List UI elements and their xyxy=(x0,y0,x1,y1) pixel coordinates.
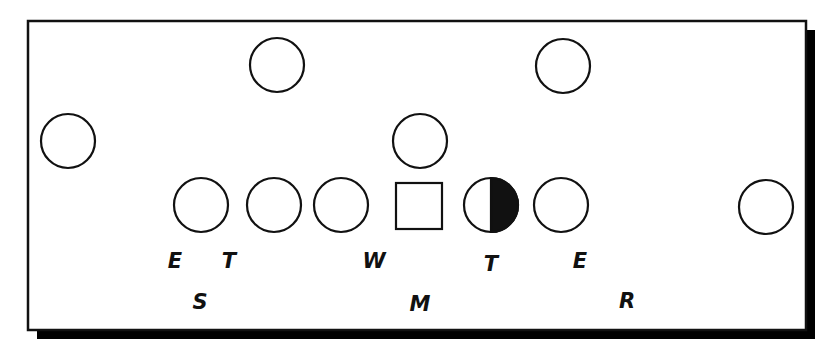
player-circle-wr-right xyxy=(739,180,793,234)
defender-label-e: E xyxy=(573,249,588,273)
defender-label-s: S xyxy=(192,290,207,314)
player-circle-qb xyxy=(393,114,447,168)
defender-label-t: T xyxy=(222,249,238,273)
player-circle-wr-left xyxy=(41,114,95,168)
player-circle-lg xyxy=(247,178,301,232)
defender-label-m: M xyxy=(410,292,431,316)
center-square xyxy=(396,183,442,229)
defender-label-w: W xyxy=(362,249,386,273)
defender-label-r: R xyxy=(619,289,635,313)
formation-diagram: ETWTESMR xyxy=(0,0,837,357)
defender-label-e: E xyxy=(168,249,183,273)
frame-border xyxy=(28,21,806,330)
player-circle-back-right xyxy=(536,39,590,93)
player-circle-rt xyxy=(534,178,588,232)
player-circle-back-left xyxy=(250,38,304,92)
defender-label-t: T xyxy=(484,252,500,276)
player-circle-rg-left xyxy=(314,178,368,232)
player-half-filled-rg xyxy=(464,178,518,232)
player-circle-lt xyxy=(174,178,228,232)
